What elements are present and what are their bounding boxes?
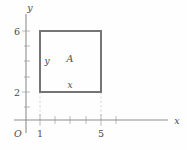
x-tick-label-1: 1	[37, 128, 43, 139]
region-height-label: y	[43, 56, 50, 66]
coordinate-plane-figure: 6 2 1 5 O y x y A x	[0, 0, 187, 150]
x-axis-label: x	[174, 115, 180, 126]
region-width-label: x	[67, 80, 72, 90]
y-axis-label: y	[26, 2, 33, 13]
y-tick-label-2: 2	[14, 87, 20, 98]
guide-lines	[40, 92, 101, 120]
origin-label: O	[14, 128, 22, 139]
x-tick-label-5: 5	[98, 128, 104, 139]
y-tick-label-6: 6	[14, 26, 20, 37]
region-name-label: A	[66, 53, 74, 64]
plot-svg: 6 2 1 5 O y x y A x	[0, 0, 187, 150]
